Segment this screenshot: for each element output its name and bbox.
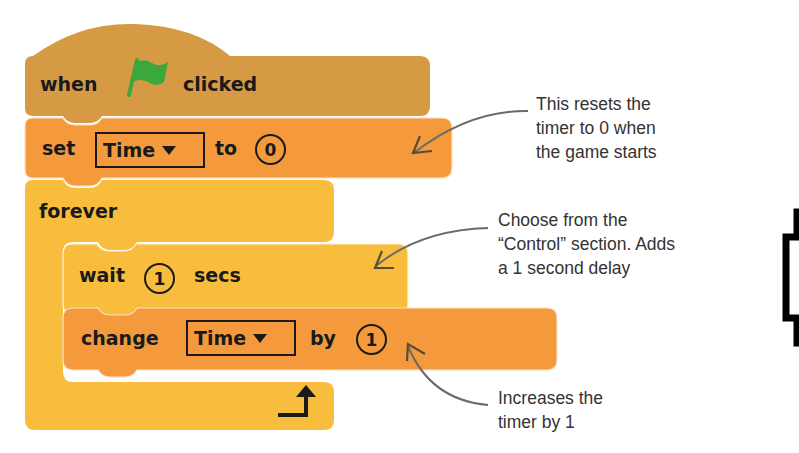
annotation-line: Increases the (498, 386, 603, 410)
annotation-reset: This resets the timer to 0 when the game… (536, 92, 657, 164)
set-label: set (42, 137, 75, 159)
annotation-control: Choose from the “Control” section. Adds … (498, 208, 675, 280)
set-block-shape[interactable] (25, 118, 452, 186)
wait-label: wait (79, 264, 125, 286)
dropdown-triangle-icon (253, 334, 267, 343)
partial-block-outline (786, 212, 799, 343)
wait-value-input[interactable]: 1 (144, 263, 175, 294)
set-variable-dropdown[interactable]: Time (95, 132, 205, 168)
change-label: change (81, 327, 159, 349)
change-variable-value: Time (194, 327, 246, 349)
dropdown-triangle-icon (162, 146, 176, 155)
annotation-line: “Control” section. Adds (498, 232, 675, 256)
set-variable-value: Time (103, 139, 155, 161)
change-value-input[interactable]: 1 (356, 324, 387, 355)
wait-secs-label: secs (194, 264, 241, 286)
set-value-input[interactable]: 0 (255, 134, 286, 165)
set-to-label: to (215, 137, 237, 159)
annotation-line: the game starts (536, 140, 657, 164)
hat-clicked-label: clicked (183, 73, 257, 95)
script-canvas (0, 0, 799, 453)
annotation-line: a 1 second delay (498, 256, 675, 280)
forever-label: forever (39, 200, 117, 222)
annotation-line: timer to 0 when (536, 116, 657, 140)
change-variable-dropdown[interactable]: Time (186, 320, 296, 356)
annotation-line: timer by 1 (498, 410, 603, 434)
annotation-line: This resets the (536, 92, 657, 116)
change-by-label: by (310, 327, 336, 349)
annotation-line: Choose from the (498, 208, 675, 232)
annotation-increase: Increases the timer by 1 (498, 386, 603, 434)
hat-when-label: when (40, 73, 98, 95)
